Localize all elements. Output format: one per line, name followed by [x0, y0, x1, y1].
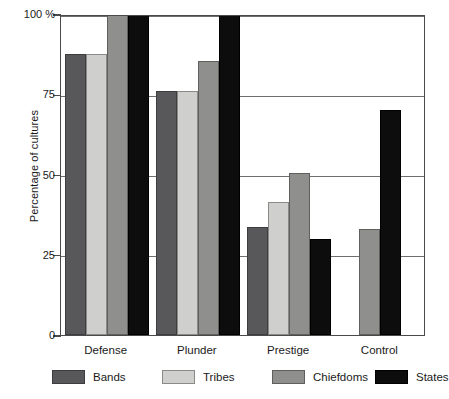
bar-defense-states — [128, 15, 149, 335]
bar-prestige-tribes — [268, 202, 289, 335]
bar-defense-tribes — [86, 54, 107, 335]
plot-area — [60, 15, 425, 336]
y-tick-label-25: 25 — [43, 250, 55, 261]
y-tick-label-100: 100 % — [24, 9, 55, 20]
bar-prestige-chiefdoms — [289, 173, 310, 335]
chart-legend: BandsTribesChiefdomsStates — [0, 367, 439, 389]
bar-plunder-states — [219, 15, 240, 335]
legend-swatch-chiefdoms-icon — [272, 370, 305, 384]
legend-label-states: States — [416, 371, 449, 383]
bar-defense-chiefdoms — [107, 15, 128, 335]
y-tick-label-75: 75 — [43, 89, 55, 100]
y-axis-title: Percentage of cultures — [28, 46, 40, 286]
legend-label-bands: Bands — [93, 371, 126, 383]
legend-item-bands[interactable]: Bands — [52, 367, 126, 387]
legend-item-states[interactable]: States — [375, 367, 449, 387]
bar-control-states — [380, 110, 401, 335]
y-tick-label-0: 0 — [49, 330, 55, 341]
bar-prestige-bands — [247, 227, 268, 335]
legend-item-chiefdoms[interactable]: Chiefdoms — [272, 367, 368, 387]
bar-plunder-tribes — [177, 91, 198, 335]
legend-swatch-states-icon — [375, 370, 408, 384]
bar-prestige-states — [310, 239, 331, 335]
y-tick-label-50: 50 — [43, 170, 55, 181]
x-axis-label-control: Control — [319, 344, 439, 356]
legend-swatch-tribes-icon — [162, 370, 195, 384]
bar-control-chiefdoms — [359, 229, 380, 335]
legend-item-tribes[interactable]: Tribes — [162, 367, 235, 387]
bar-plunder-bands — [156, 91, 177, 335]
bar-defense-bands — [65, 54, 86, 335]
legend-label-chiefdoms: Chiefdoms — [313, 371, 368, 383]
legend-swatch-bands-icon — [52, 370, 85, 384]
legend-label-tribes: Tribes — [203, 371, 235, 383]
bar-plunder-chiefdoms — [198, 61, 219, 335]
